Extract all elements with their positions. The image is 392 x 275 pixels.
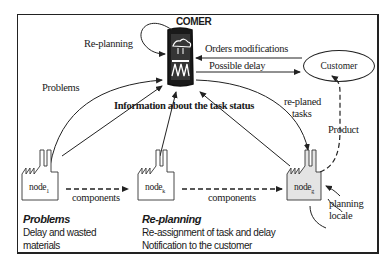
components-label-2: components <box>208 192 256 203</box>
node-g-label: nodeg <box>294 182 314 194</box>
replanning-section-title: Re-planning <box>142 213 201 225</box>
node-1-label: node1 <box>29 182 49 194</box>
information-task-status-label: Information about the task status <box>114 100 254 111</box>
orders-modifications-label: Orders modifications <box>205 43 288 54</box>
comer-factory-icon <box>168 28 193 86</box>
replaned-tasks-label-1: re-planed <box>284 96 321 107</box>
problems-section-title: Problems <box>23 213 70 225</box>
node-k-label: nodek <box>145 182 165 194</box>
replanning-section-text: Re-assignment of task and delay Notifica… <box>142 226 275 252</box>
planning-locale-label-1: planning <box>329 198 363 209</box>
replaned-tasks-label-2: tasks <box>292 108 312 119</box>
planning-locale-label-2: locale <box>329 210 352 221</box>
replanning-loop-label: Re-planning <box>84 38 133 49</box>
problems-edge-label: Problems <box>42 82 79 93</box>
product-label: Product <box>328 124 359 135</box>
possible-delay-label: Possible delay <box>209 60 265 71</box>
components-label-1: components <box>72 192 120 203</box>
customer-label: Customer <box>321 61 358 71</box>
problems-section-text: Delay and wasted materials <box>23 226 96 252</box>
comer-title: COMER <box>176 16 211 27</box>
customer-node: Customer <box>303 50 375 82</box>
